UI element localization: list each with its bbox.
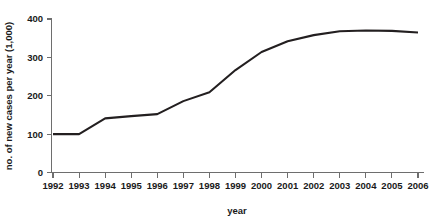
y-tick-label: 0 [38,167,43,178]
chart-plot-area: 0100200300400 19921993199419951996199719… [0,0,437,220]
x-tick-label: 2002 [303,180,324,191]
x-tick-label: 1998 [199,180,220,191]
y-axis-title: no. of new cases per year (1,000) [3,22,14,170]
x-tick-label: 1999 [225,180,246,191]
x-tick-label: 2001 [277,180,299,191]
x-tick-label: 2003 [329,180,350,191]
y-tick-label: 300 [27,52,43,63]
x-tick-label: 2000 [251,180,272,191]
x-axis-tick-labels: 1992199319941995199619971998199920002001… [42,180,428,191]
y-tick-label: 400 [27,13,43,24]
x-axis-title: year [227,205,247,216]
x-tick-label: 2004 [355,180,377,191]
x-tick-label: 2005 [381,180,403,191]
x-tick-label: 1996 [147,180,168,191]
line-chart: 0100200300400 19921993199419951996199719… [0,0,437,220]
x-tick-label: 1997 [173,180,194,191]
y-tick-label: 200 [27,90,43,101]
x-tick-label: 1992 [42,180,63,191]
y-tick-label: 100 [27,129,43,140]
x-tick-label: 1993 [69,180,90,191]
x-tick-label: 1994 [95,180,117,191]
x-tick-label: 2006 [407,180,428,191]
x-tick-label: 1995 [121,180,143,191]
